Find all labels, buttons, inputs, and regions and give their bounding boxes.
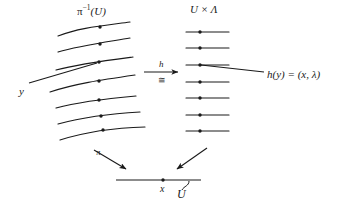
label-base-point-x: x [160, 184, 164, 194]
label-preimage-exponent: −1 [83, 3, 91, 12]
label-projection-pi: π [96, 148, 101, 157]
right-fiber-point [198, 80, 201, 83]
right-fiber-point [198, 129, 201, 132]
left-fiber-curve [58, 38, 130, 52]
left-fiber-point [101, 128, 104, 131]
left-fiber-point [99, 114, 102, 117]
label-image-equation: h(y) = (x, λ) [267, 69, 320, 80]
hy-leader-line [201, 65, 264, 72]
right-fiber-point [198, 46, 201, 49]
projection-right-arrow [177, 148, 207, 169]
left-fiber-point [98, 25, 101, 28]
left-fiber-curve [50, 75, 135, 92]
left-fiber-curve [58, 22, 130, 36]
label-isomorphism-symbol: ≅ [158, 76, 166, 85]
left-fiber-curve [56, 96, 136, 108]
right-fiber-point [198, 113, 201, 116]
left-fiber-point [98, 42, 101, 45]
right-fiber-point-group [198, 30, 201, 132]
fiber-bundle-diagram [0, 0, 344, 206]
label-base-open-set-U: U [177, 188, 186, 200]
y-leader-line [29, 63, 97, 83]
left-fiber-point [97, 60, 100, 63]
label-map-h: h [159, 60, 164, 69]
label-preimage-of-U: π−1(U) [77, 4, 106, 17]
label-product-space: U × Λ [190, 4, 218, 15]
left-fiber-point [97, 79, 100, 82]
right-fiber-group [186, 32, 229, 131]
right-fiber-point [198, 30, 201, 33]
figure-canvas: π−1(U) U × Λ y h ≅ h(y) = (x, λ) π x U [0, 0, 344, 206]
left-fiber-point [97, 98, 100, 101]
label-preimage-argument: (U) [91, 5, 106, 17]
base-point-dot [161, 178, 164, 181]
right-fiber-point [198, 96, 201, 99]
label-point-y: y [19, 86, 24, 97]
left-fiber-curve [58, 112, 140, 124]
